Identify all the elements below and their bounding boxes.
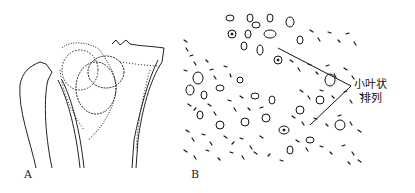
panel-a-bone-drawing: A xyxy=(0,0,180,193)
panel-label-b: B xyxy=(191,168,199,181)
bone-illustration xyxy=(0,0,180,193)
annotation-line-1: 小叶状 xyxy=(354,78,387,92)
lobulated-arrangement-annotation: 小叶状 排列 xyxy=(354,78,387,106)
annotation-line-2: 排列 xyxy=(354,92,387,106)
panel-label-a: A xyxy=(24,168,32,181)
